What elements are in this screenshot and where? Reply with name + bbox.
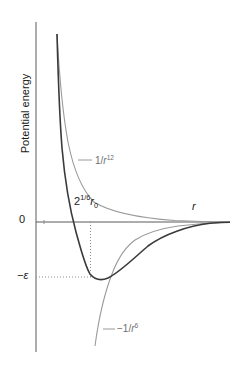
repulsive-term-annotation: 1/r12 xyxy=(95,156,114,166)
lennard-jones-potential-curve xyxy=(57,34,230,280)
attractive-term-curve xyxy=(95,222,229,346)
potential-energy-chart: Potential energy 0 −ε r 21/6r0 1/r12 −1/… xyxy=(0,0,241,376)
y-axis-title: Potential energy xyxy=(20,49,31,179)
attractive-exponent: 6 xyxy=(135,322,139,329)
repulsive-exponent: 12 xyxy=(107,154,114,161)
x-axis-title: r xyxy=(192,201,196,212)
attractive-prefix: −1/ xyxy=(117,323,131,334)
well-depth-tick-label: −ε xyxy=(17,270,28,281)
equilibrium-subscript: 0 xyxy=(94,201,98,210)
equilibrium-exponent: 1/6 xyxy=(80,193,90,202)
attractive-term-annotation: −1/r6 xyxy=(117,324,138,334)
chart-plot-area xyxy=(0,0,241,376)
zero-energy-tick-label: 0 xyxy=(19,214,25,225)
equilibrium-distance-label: 21/6r0 xyxy=(74,196,98,207)
well-depth-symbol: ε xyxy=(23,269,28,281)
